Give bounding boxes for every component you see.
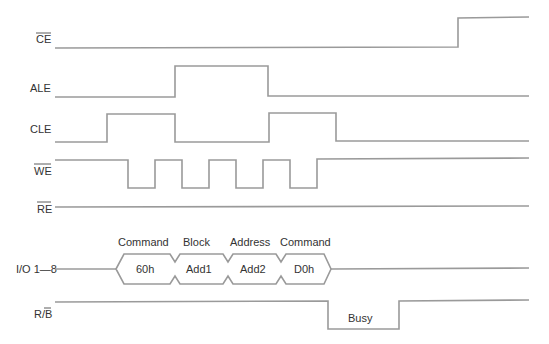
phase-header-3: Address <box>230 236 271 248</box>
phase-value-1: 60h <box>136 263 154 275</box>
ale-waveform <box>55 66 529 97</box>
phase-value-3: Add2 <box>240 263 266 275</box>
timing-diagram: CE ALE CLE WE RE I/O 1—8 R/B Command Blo… <box>0 0 549 344</box>
phase-header-2: Block <box>183 236 210 248</box>
cle-label: CLE <box>30 123 51 135</box>
ale-label: ALE <box>30 82 51 94</box>
io-label: I/O 1—8 <box>16 263 57 275</box>
signal-labels: CE ALE CLE WE RE I/O 1—8 R/B <box>16 33 57 320</box>
we-waveform <box>55 158 529 188</box>
phase-value-2: Add1 <box>186 263 212 275</box>
cle-waveform <box>55 113 529 142</box>
rb-waveform <box>55 300 529 329</box>
rb-label: R/B <box>34 308 52 320</box>
io-bus: Command Block Address Command 60h Add1 A… <box>55 236 529 284</box>
phase-header-4: Command <box>280 236 331 248</box>
busy-label: Busy <box>348 312 373 324</box>
ce-label: CE <box>36 33 51 45</box>
we-label: WE <box>34 165 52 177</box>
re-waveform <box>55 206 529 207</box>
phase-value-4: D0h <box>294 263 314 275</box>
re-label: RE <box>37 203 52 215</box>
ce-waveform <box>55 17 529 48</box>
phase-header-1: Command <box>118 236 169 248</box>
